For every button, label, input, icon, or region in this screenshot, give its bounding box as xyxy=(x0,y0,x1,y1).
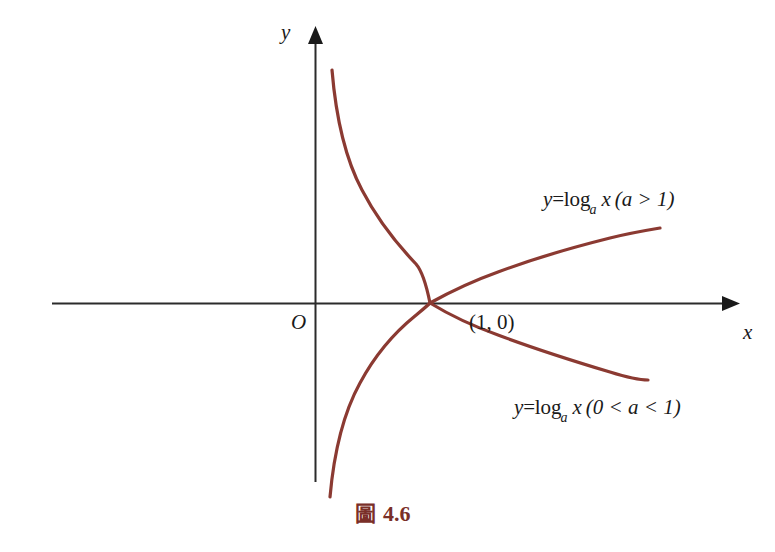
curve-label-lhs-var: y xyxy=(543,187,552,211)
curve-label-arg-var: x xyxy=(602,187,611,211)
origin-label: O xyxy=(291,312,306,333)
y-axis-label: y xyxy=(281,22,290,43)
curve-label2-arg-var: x xyxy=(573,395,582,419)
curve-label-condition: (a > 1) xyxy=(615,187,675,211)
curve-label2-log-base: a xyxy=(561,410,568,425)
x-axis-arrowhead-icon xyxy=(722,296,740,311)
curve-label2-condition: (0 < a < 1) xyxy=(586,395,681,419)
curve-label-log-fn: log xyxy=(564,187,591,211)
y-axis xyxy=(308,26,323,482)
curve-label2-log-fn: log xyxy=(535,395,562,419)
curve-label2-lhs-var: y xyxy=(514,395,523,419)
curve-label2-equals-sign: = xyxy=(523,395,534,419)
point-label-one-zero: (1, 0) xyxy=(469,312,515,333)
curve-log-a-greater-than-1 xyxy=(330,228,660,497)
figure-caption-number: 4.6 xyxy=(383,501,411,526)
figure-caption-cjk: 圖 xyxy=(355,502,377,526)
y-axis-arrowhead-icon xyxy=(308,26,323,44)
curve-label-a-greater-than-1: y=logax(a > 1) xyxy=(543,188,675,215)
curve-label-a-between-0-and-1: y=logax(0 < a < 1) xyxy=(514,396,681,423)
coordinate-plot xyxy=(0,0,775,552)
x-axis-label: x xyxy=(743,322,752,343)
figure-caption: 圖4.6 xyxy=(355,503,411,525)
figure-container: y x O (1, 0) y=logax(a > 1) y=logax(0 < … xyxy=(0,0,775,552)
x-axis xyxy=(52,296,740,311)
curve-label-log-base: a xyxy=(590,202,597,217)
curve-label-equals-sign: = xyxy=(552,187,563,211)
